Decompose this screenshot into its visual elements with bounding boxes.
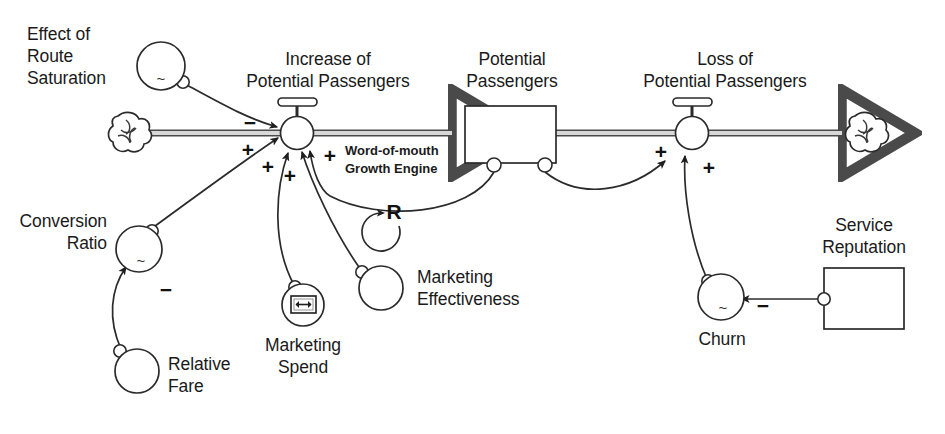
- link-conversion-to-increase: [151, 138, 278, 229]
- polarity-fare-to-conversion: −: [160, 278, 172, 301]
- connector-dot-stock-left: [487, 158, 501, 172]
- label-marketing-spend-line2: Spend: [278, 357, 328, 377]
- label-service-reputation-line1: Service: [835, 215, 893, 235]
- variable-glyph-tilde: ~: [157, 70, 166, 87]
- stock-potential-passengers[interactable]: [465, 106, 556, 163]
- label-effect-of-route-saturation-line2: Route: [27, 46, 73, 66]
- polarity-churn-to-loss: +: [703, 156, 715, 179]
- variable-relative-fare[interactable]: [115, 349, 159, 393]
- label-loop-caption-line2: Growth Engine: [345, 161, 437, 176]
- loop-letter: R: [386, 200, 401, 223]
- label-increase-of-potential-passengers-line1: Increase of: [285, 49, 371, 69]
- link-stock-to-loss: [545, 161, 665, 189]
- polarity-reputation-to-churn: −: [757, 294, 769, 317]
- variable-glyph-tilde: ~: [137, 252, 146, 269]
- sink-cloud: [846, 112, 889, 151]
- polarity-saturation-to-increase: −: [244, 111, 256, 134]
- valve-increase-of-potential-passengers[interactable]: [278, 98, 317, 150]
- label-marketing-effectiveness-line1: Marketing: [417, 267, 493, 287]
- polarity-effectiveness-to-increase: +: [284, 164, 296, 187]
- stock-and-flow-diagram: ~ ~ ~: [0, 0, 945, 434]
- link-fare-to-conversion: [112, 267, 126, 349]
- variable-effect-of-route-saturation[interactable]: ~: [137, 42, 185, 90]
- label-conversion-ratio-line1: Conversion: [19, 211, 107, 231]
- label-relative-fare-line1: Relative: [168, 354, 230, 374]
- polarity-stock-to-increase: +: [324, 144, 336, 167]
- connector-dot-stock-right: [538, 158, 552, 172]
- label-effect-of-route-saturation-line3: Saturation: [27, 68, 106, 88]
- slider-control-icon: [291, 296, 316, 313]
- label-potential-passengers-line2: Passengers: [466, 71, 558, 91]
- polarity-spend-to-increase: +: [262, 155, 274, 178]
- label-service-reputation-line2: Reputation: [822, 237, 906, 257]
- variable-conversion-ratio[interactable]: ~: [116, 226, 162, 272]
- connector-dot-service-reputation: [818, 293, 830, 305]
- label-marketing-effectiveness-line2: Effectiveness: [417, 289, 520, 309]
- variable-glyph-tilde: ~: [719, 299, 728, 316]
- stock-service-reputation[interactable]: [824, 268, 904, 329]
- label-conversion-ratio-line2: Ratio: [67, 233, 107, 253]
- label-potential-passengers-line1: Potential: [478, 49, 545, 69]
- variable-churn[interactable]: ~: [698, 274, 744, 320]
- label-marketing-spend-line1: Marketing: [265, 335, 341, 355]
- label-increase-of-potential-passengers-line2: Potential Passengers: [246, 71, 410, 91]
- variable-marketing-spend[interactable]: [282, 284, 324, 326]
- variable-marketing-effectiveness[interactable]: [359, 266, 403, 310]
- label-churn: Churn: [698, 329, 745, 349]
- diagram-canvas: ~ ~ ~: [0, 0, 945, 434]
- polarity-conversion-to-increase: +: [242, 138, 254, 161]
- label-effect-of-route-saturation-line1: Effect of: [27, 24, 90, 44]
- label-loop-caption-line1: Word-of-mouth: [345, 143, 439, 158]
- label-loss-of-potential-passengers-line1: Loss of: [697, 49, 753, 69]
- valve-loss-of-potential-passengers[interactable]: [673, 98, 712, 150]
- label-relative-fare-line2: Fare: [168, 376, 204, 396]
- source-cloud: [109, 112, 152, 151]
- label-loss-of-potential-passengers-line2: Potential Passengers: [643, 71, 807, 91]
- polarity-stock-to-loss: +: [655, 140, 667, 163]
